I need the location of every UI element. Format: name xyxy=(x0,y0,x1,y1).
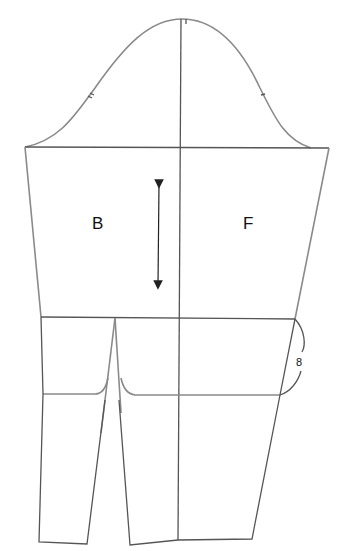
front-label: F xyxy=(243,214,253,233)
measurement-label: 8 xyxy=(296,356,302,368)
measurement-arc xyxy=(295,319,304,352)
front-lower-piece xyxy=(119,319,295,545)
back-underarm-seam-upper xyxy=(25,147,41,317)
dart-leg-front xyxy=(115,318,121,413)
lower-slash-line-back xyxy=(43,378,108,394)
center-grain-line xyxy=(178,19,181,540)
sleeve-cap-curve xyxy=(25,19,311,148)
back-label: B xyxy=(92,214,103,233)
grainline-arrow xyxy=(158,184,159,285)
back-lower-piece xyxy=(39,317,105,544)
lower-slash-line-front xyxy=(121,378,280,395)
bicep-line xyxy=(25,147,329,148)
front-underarm-seam-upper xyxy=(295,148,329,319)
front-notch-mark xyxy=(261,94,265,95)
sleeve-pattern-diagram: B F 8 xyxy=(0,0,337,551)
measurement-arc-lower xyxy=(280,371,301,395)
elbow-line xyxy=(41,317,295,319)
